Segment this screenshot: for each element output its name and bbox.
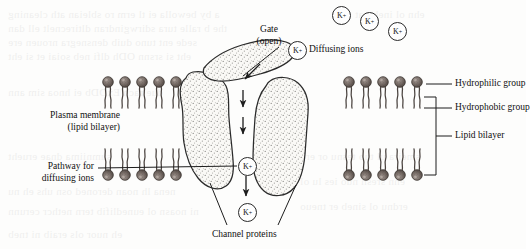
membrane-left-outer-leaflet	[103, 77, 182, 109]
ion-potassium-entering: K+	[288, 41, 307, 60]
ion-potassium-in-channel: K+	[238, 157, 257, 176]
channel-protein-right	[253, 77, 308, 195]
label-pathway-diffusing-ions: Pathway for diffusing ions	[8, 161, 94, 184]
ion-potassium: K+	[388, 22, 407, 41]
membrane-right-inner-leaflet	[344, 149, 423, 181]
membrane-right	[344, 77, 423, 181]
bracket-lipid-bilayer	[424, 97, 436, 175]
label-hydrophilic-group: Hydrophilic group	[455, 78, 525, 90]
label-channel-proteins: Channel proteins	[212, 229, 277, 241]
label-plasma-membrane: Plasma membrane (lipid bilayer)	[8, 110, 120, 133]
label-lipid-bilayer: Lipid bilayer	[455, 130, 504, 142]
membrane-left-inner-leaflet	[103, 149, 182, 181]
ion-potassium: K+	[360, 12, 379, 31]
ion-potassium: K+	[332, 6, 351, 25]
label-diffusing-ions: Diffusing ions	[309, 44, 363, 56]
label-hydrophobic-group: Hydrophobic group	[455, 102, 530, 114]
membrane-right-outer-leaflet	[344, 77, 423, 109]
ion-potassium-exiting: K+	[238, 203, 257, 222]
channel-protein-left	[180, 72, 233, 189]
label-gate-open: Gate (open)	[247, 24, 291, 47]
